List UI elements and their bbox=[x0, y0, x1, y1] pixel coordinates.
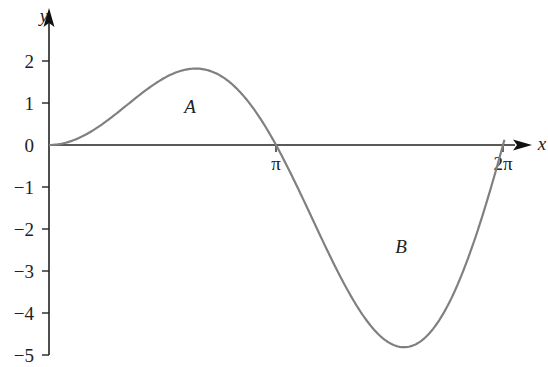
x-axis-arrow-icon bbox=[513, 140, 532, 151]
chart-canvas: 2 1 0 −1 −2 −3 −4 −5 π 2π y x A B bbox=[0, 0, 548, 367]
y-tick-label: −5 bbox=[14, 345, 34, 366]
y-tick-label: 1 bbox=[25, 93, 35, 114]
region-a-label: A bbox=[182, 96, 196, 117]
y-ticks bbox=[42, 61, 49, 355]
y-tick-label: −2 bbox=[14, 219, 34, 240]
function-curve bbox=[49, 69, 504, 348]
y-tick-label: 2 bbox=[25, 51, 35, 72]
y-axis-label: y bbox=[38, 5, 49, 26]
x-tick-label-pi: π bbox=[271, 153, 281, 174]
region-b-label: B bbox=[395, 236, 407, 257]
y-tick-label: −1 bbox=[14, 177, 34, 198]
y-tick-label: 0 bbox=[25, 135, 35, 156]
y-tick-label: −4 bbox=[14, 303, 35, 324]
y-tick-label: −3 bbox=[14, 261, 34, 282]
x-axis-label: x bbox=[537, 133, 547, 154]
